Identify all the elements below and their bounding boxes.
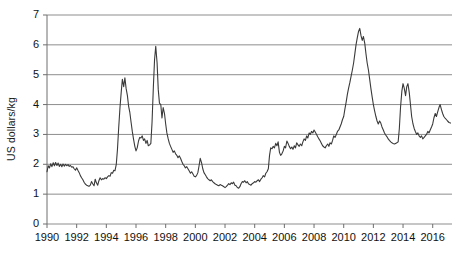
chart-container: US dollars/kg 01234567 19901992199419961…	[0, 0, 466, 258]
x-tick-label: 1992	[62, 231, 92, 243]
x-tick-label: 2016	[418, 231, 448, 243]
x-tick-label: 2010	[329, 231, 359, 243]
y-tick-label: 3	[11, 127, 39, 139]
x-tick-label: 1996	[121, 231, 151, 243]
x-tick-label: 1998	[151, 231, 181, 243]
line-chart-plot	[0, 0, 466, 258]
y-tick-label: 7	[11, 8, 39, 20]
x-tick-label: 2012	[358, 231, 388, 243]
y-tick-label: 2	[11, 157, 39, 169]
y-tick-label: 1	[11, 187, 39, 199]
y-tick-label: 0	[11, 217, 39, 229]
x-tick-label: 2002	[210, 231, 240, 243]
x-tick-label: 2004	[240, 231, 270, 243]
y-tick-label: 5	[11, 68, 39, 80]
x-tick-label: 2000	[180, 231, 210, 243]
x-tick-label: 2008	[299, 231, 329, 243]
x-tick-label: 2014	[388, 231, 418, 243]
y-tick-label: 4	[11, 98, 39, 110]
x-tick-label: 2006	[269, 231, 299, 243]
y-tick-label: 6	[11, 38, 39, 50]
x-tick-label: 1990	[32, 231, 62, 243]
x-tick-label: 1994	[91, 231, 121, 243]
x-axis-ticks	[43, 15, 433, 228]
gridlines	[47, 15, 452, 224]
